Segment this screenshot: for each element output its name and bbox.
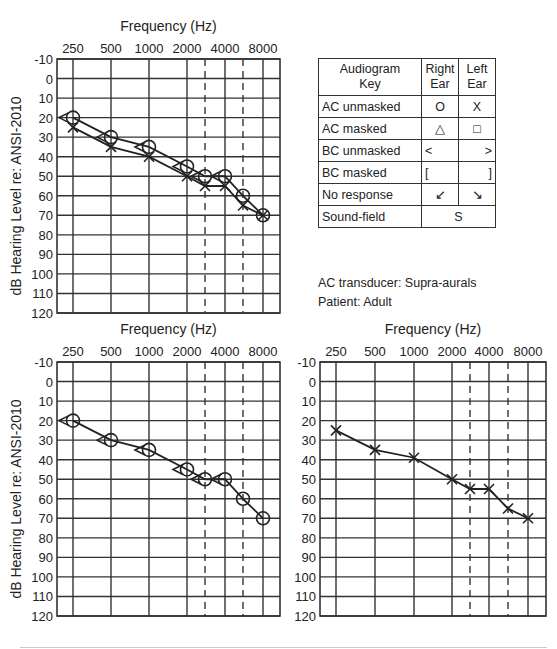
- y-tick-label: 40: [39, 150, 53, 165]
- x-tick-label: 1000: [135, 41, 164, 56]
- y-tick-label: 80: [302, 531, 316, 546]
- frequency-axis-title: Frequency (Hz): [385, 321, 481, 337]
- y-tick-label: 60: [39, 189, 53, 204]
- bc-right-marker-icon: [173, 464, 183, 474]
- x-tick-label: 8000: [249, 344, 278, 359]
- frequency-axis-title: Frequency (Hz): [120, 18, 216, 34]
- y-tick-label: 50: [302, 472, 316, 487]
- audiogram-bottom-left: Frequency (Hz)2505001000200040008000-100…: [0, 320, 290, 649]
- y-tick-label: 30: [39, 433, 53, 448]
- right-ac-unmasked-symbol: O: [422, 96, 459, 118]
- x-tick-label: 4000: [211, 41, 240, 56]
- x-tick-label: 500: [100, 344, 122, 359]
- left-ac-unmasked-symbol: X: [459, 96, 496, 118]
- x-tick-label: 500: [100, 41, 122, 56]
- y-tick-label: 110: [32, 589, 53, 604]
- y-tick-label: 30: [39, 130, 53, 145]
- y-axis-label: dB Hearing Level re: ANSI-2010: [8, 96, 24, 295]
- y-tick-label: 40: [302, 453, 316, 468]
- audiogram-chart-right-ear: Frequency (Hz)2505001000200040008000-100…: [0, 320, 290, 649]
- y-tick-label: 20: [39, 111, 53, 126]
- x-tick-label: 1000: [400, 344, 429, 359]
- audiogram-bottom-right: Frequency (Hz)2505001000200040008000-100…: [280, 320, 557, 649]
- y-tick-label: 40: [39, 453, 53, 468]
- transducer-note: AC transducer: Supra-aurals: [318, 274, 476, 293]
- x-tick-label: 250: [325, 344, 347, 359]
- y-tick-label: 50: [39, 169, 53, 184]
- key-row-ac-masked: AC masked △ □: [319, 118, 496, 140]
- divider: [20, 647, 547, 648]
- y-tick-label: 70: [302, 511, 316, 526]
- key-row-ac-unmasked: AC unmasked O X: [319, 96, 496, 118]
- audiogram-frame: [57, 59, 280, 313]
- x-tick-label: 2000: [438, 344, 467, 359]
- audiogram-frame: [320, 362, 546, 616]
- x-tick-label: 1000: [135, 344, 164, 359]
- left-no-response-icon: ↘: [459, 184, 496, 206]
- x-tick-label: 8000: [249, 41, 278, 56]
- key-header-left-ear: LeftEar: [459, 59, 496, 96]
- y-tick-label: 100: [31, 570, 53, 585]
- y-tick-label: 60: [39, 492, 53, 507]
- x-tick-label: 500: [364, 344, 386, 359]
- y-tick-label: 100: [31, 267, 53, 282]
- y-tick-label: 90: [302, 550, 316, 565]
- audiogram-chart-combined: Frequency (Hz)2505001000200040008000-100…: [0, 0, 290, 330]
- y-tick-label: 10: [302, 394, 316, 409]
- y-tick-label: 10: [39, 394, 53, 409]
- y-tick-label: 90: [39, 247, 53, 262]
- left-bc-masked-symbol: ]: [459, 162, 496, 184]
- y-tick-label: 0: [46, 72, 53, 87]
- y-tick-label: -10: [297, 355, 316, 370]
- y-tick-label: 120: [31, 609, 53, 624]
- patient-note: Patient: Adult: [318, 293, 476, 312]
- sound-field-symbol: S: [422, 206, 496, 228]
- x-tick-label: 250: [62, 41, 84, 56]
- y-tick-label: 120: [31, 306, 53, 321]
- right-no-response-icon: ↙: [422, 184, 459, 206]
- key-row-bc-unmasked: BC unmasked < >: [319, 140, 496, 162]
- left-ac-masked-symbol: □: [459, 118, 496, 140]
- audiogram-chart-left-ear: Frequency (Hz)2505001000200040008000-100…: [280, 320, 557, 649]
- y-tick-label: 50: [39, 472, 53, 487]
- key-header-label: AudiogramKey: [319, 59, 422, 96]
- x-tick-label: 8000: [514, 344, 543, 359]
- y-tick-label: -10: [34, 355, 53, 370]
- x-tick-label: 250: [62, 344, 84, 359]
- x-tick-label: 4000: [475, 344, 504, 359]
- y-tick-label: 20: [302, 414, 316, 429]
- key-row-no-response: No response ↙ ↘: [319, 184, 496, 206]
- series-O: [67, 414, 270, 525]
- audiogram-notes: AC transducer: Supra-aurals Patient: Adu…: [318, 274, 476, 312]
- y-tick-label: 10: [39, 91, 53, 106]
- key-row-sound-field: Sound-field S: [319, 206, 496, 228]
- key-row-bc-masked: BC masked [ ]: [319, 162, 496, 184]
- x-tick-label: 2000: [173, 41, 202, 56]
- right-bc-masked-symbol: [: [422, 162, 459, 184]
- audiogram-frame: [57, 362, 280, 616]
- y-tick-label: 80: [39, 228, 53, 243]
- y-tick-label: 110: [295, 589, 316, 604]
- key-header-right-ear: RightEar: [422, 59, 459, 96]
- x-tick-label: 2000: [173, 344, 202, 359]
- y-axis-label: dB Hearing Level re: ANSI-2010: [8, 399, 24, 598]
- y-tick-label: 70: [39, 208, 53, 223]
- frequency-axis-title: Frequency (Hz): [120, 321, 216, 337]
- audiogram-top-left: Frequency (Hz)2505001000200040008000-100…: [0, 0, 290, 330]
- audiogram-key-table: AudiogramKey RightEar LeftEar AC unmaske…: [318, 58, 496, 228]
- y-tick-label: 70: [39, 511, 53, 526]
- y-tick-label: 110: [32, 286, 53, 301]
- y-tick-label: 60: [302, 492, 316, 507]
- y-tick-label: 20: [39, 414, 53, 429]
- y-tick-label: 120: [294, 609, 316, 624]
- x-tick-label: 4000: [211, 344, 240, 359]
- y-tick-label: 0: [309, 375, 316, 390]
- y-tick-label: 0: [46, 375, 53, 390]
- y-tick-label: 30: [302, 433, 316, 448]
- right-ac-masked-symbol: △: [422, 118, 459, 140]
- y-tick-label: 90: [39, 550, 53, 565]
- y-tick-label: 100: [294, 570, 316, 585]
- y-tick-label: -10: [34, 52, 53, 67]
- left-bc-unmasked-symbol: >: [459, 140, 496, 162]
- right-bc-unmasked-symbol: <: [422, 140, 459, 162]
